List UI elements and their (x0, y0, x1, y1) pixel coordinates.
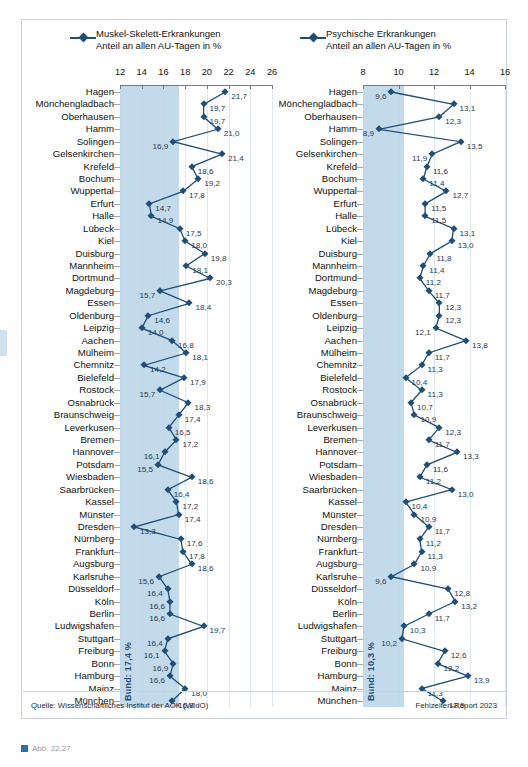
category-label: Essen (330, 298, 357, 308)
category-label: Münster (79, 510, 114, 520)
data-value-label: 13,8 (472, 340, 488, 349)
data-value-label: 14,7 (155, 203, 171, 212)
x-tick-label: 22 (223, 67, 233, 77)
data-value-label: 12,1 (415, 328, 431, 337)
data-value-label: 21,0 (224, 129, 240, 138)
x-tick-label: 24 (245, 67, 255, 77)
data-value-label: 13,1 (460, 228, 476, 237)
data-value-label: 15,5 (137, 464, 153, 473)
category-label: Frankfurt (76, 547, 114, 557)
category-label: Mülheim (78, 348, 114, 358)
category-label: Osnabrück (68, 398, 114, 408)
data-value-label: 11,4 (429, 266, 444, 275)
category-label: Leverkusen (307, 423, 357, 433)
category-label: Düsseldorf (68, 584, 114, 594)
x-tick-mark (163, 85, 164, 89)
category-label: Wuppertal (313, 186, 357, 196)
category-label: Nürnberg (317, 534, 357, 544)
data-value-label: 11,7 (435, 440, 450, 449)
legend-psychische: Psychische Erkrankungen Anteil an allen … (300, 28, 451, 53)
data-value-label: 17,5 (186, 228, 202, 237)
data-value-label: 20,3 (216, 278, 232, 287)
category-label: Rostock (322, 385, 357, 395)
category-label: Saarbrücken (60, 485, 114, 495)
category-label: Dortmund (315, 273, 357, 283)
x-tick-label: 12 (115, 67, 125, 77)
data-value-label: 19,7 (210, 626, 226, 635)
caption-marker-icon (21, 745, 28, 752)
data-value-label: 17,4 (185, 415, 201, 424)
category-label: Leipzig (84, 323, 114, 333)
data-value-label: 11,5 (431, 216, 446, 225)
category-label: Hamm (329, 124, 357, 134)
data-value-label: 13,3 (463, 452, 479, 461)
data-value-label: 11,2 (426, 278, 441, 287)
x-tick-label: 10 (393, 67, 403, 77)
category-label: Wiesbaden (66, 472, 114, 482)
category-label: Osnabrück (311, 398, 357, 408)
data-value-label: 12,3 (445, 303, 461, 312)
category-label: Chemnitz (73, 360, 114, 370)
data-value-label: 14,6 (154, 315, 170, 324)
data-value-label: 13,0 (458, 241, 474, 250)
data-value-label: 14,0 (148, 328, 164, 337)
x-tick-mark (185, 85, 186, 89)
data-value-label: 16,1 (144, 452, 160, 461)
data-value-label: 11,7 (435, 353, 450, 362)
x-tick-label: 8 (360, 67, 365, 77)
category-label: Oberhausen (304, 112, 357, 122)
category-label: Halle (335, 211, 357, 221)
category-label: Berlin (332, 609, 357, 619)
data-value-label: 17,4 (185, 514, 201, 523)
chart-figure: Muskel-Skelett-Erkrankungen Anteil an al… (21, 19, 507, 719)
x-tick-mark (505, 85, 506, 89)
data-value-label: 12,2 (444, 663, 460, 672)
category-label: Krefeld (84, 162, 114, 172)
data-value-label: 13,2 (461, 601, 477, 610)
data-value-label: 18,6 (198, 166, 214, 175)
footer-divider (23, 691, 505, 692)
category-label: Leverkusen (64, 423, 114, 433)
category-label: Oldenburg (312, 311, 357, 321)
legend-muskel-skelett: Muskel-Skelett-Erkrankungen Anteil an al… (70, 28, 221, 53)
x-tick-mark (250, 85, 251, 89)
x-axis-tick-labels-left: 1214161820222426 (120, 67, 272, 83)
category-label: Freiburg (321, 646, 357, 656)
x-tick-mark (363, 85, 364, 89)
category-labels-left: HagenMönchengladbachOberhausenHammSoling… (24, 67, 120, 707)
data-value-label: 11,2 (426, 539, 441, 548)
category-label: Potsdam (76, 460, 114, 470)
x-tick-mark (142, 85, 143, 89)
x-tick-mark (434, 85, 435, 89)
data-value-label: 16,4 (174, 489, 190, 498)
data-value-label: 16,6 (149, 614, 165, 623)
category-label: Gelsenkirchen (53, 149, 114, 159)
data-value-label: 14,2 (150, 365, 166, 374)
category-label: Kiel (341, 236, 357, 246)
data-value-label: 10,4 (412, 502, 428, 511)
data-value-label: 18,6 (198, 564, 214, 573)
category-label: Münster (322, 510, 357, 520)
data-value-label: 17,2 (182, 502, 198, 511)
data-value-label: 18,6 (198, 477, 214, 486)
data-value-label: 17,9 (190, 377, 206, 386)
data-value-label: 11,4 (429, 179, 444, 188)
data-value-label: 16,4 (147, 589, 163, 598)
category-label: Braunschweig (297, 410, 357, 420)
category-label: Dortmund (72, 273, 114, 283)
data-value-label: 10,4 (412, 377, 428, 386)
data-value-label: 16,6 (149, 601, 165, 610)
category-label: Hamburg (318, 671, 357, 681)
category-label: Wuppertal (70, 186, 114, 196)
category-labels-right: HagenMönchengladbachOberhausenHammSoling… (267, 67, 363, 707)
data-value-label: 11,6 (433, 464, 448, 473)
data-value-label: 18,1 (192, 353, 208, 362)
data-value-label: 15,7 (139, 390, 155, 399)
data-value-label: 11,9 (412, 154, 427, 163)
category-label: Kassel (85, 497, 114, 507)
category-label: Düsseldorf (311, 584, 357, 594)
data-value-label: 10,9 (420, 415, 436, 424)
category-label: Krefeld (327, 162, 357, 172)
category-label: Stuttgart (321, 634, 357, 644)
category-label: Kassel (328, 497, 357, 507)
